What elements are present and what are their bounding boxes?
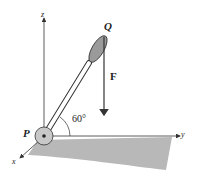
y-axis-label: y bbox=[181, 130, 185, 139]
diagram-canvas bbox=[0, 0, 197, 182]
force-label: F bbox=[110, 70, 117, 82]
force-diagram: z y x P Q F 60° bbox=[0, 0, 197, 182]
angle-label: 60° bbox=[72, 113, 86, 124]
point-q-label: Q bbox=[104, 20, 112, 32]
point-p-label: P bbox=[23, 127, 30, 139]
pivot-joint bbox=[35, 127, 53, 145]
angle-arc bbox=[60, 117, 70, 136]
handle-grip bbox=[85, 33, 110, 65]
x-axis-label: x bbox=[12, 157, 16, 166]
z-axis-label: z bbox=[41, 10, 44, 19]
